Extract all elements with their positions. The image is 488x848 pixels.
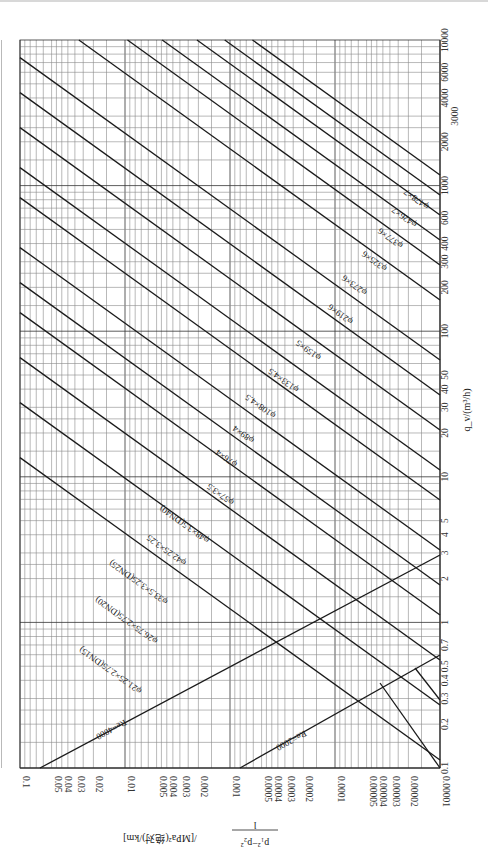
y-tick-label: 3000 bbox=[450, 106, 460, 125]
x-tick-label: 0.001 bbox=[231, 776, 241, 798]
x-tick-label: 0.04 bbox=[63, 776, 73, 793]
x-tick-label: 0.1 bbox=[21, 776, 31, 788]
y-tick-label: 20 bbox=[440, 428, 450, 438]
y-tick-label: 0.5 bbox=[440, 660, 450, 672]
pipe-label: φ133×4.5 bbox=[266, 366, 301, 395]
pipe-label: φ33.5×3.25(DN25) bbox=[107, 558, 169, 607]
laminar-segment bbox=[380, 683, 440, 768]
pipe-label: φ21.25×2.75(DN15) bbox=[77, 645, 143, 697]
x-axis-fraction-numerator: p₁²−p₂² bbox=[241, 838, 270, 848]
x-tick-label: 0.003 bbox=[181, 776, 191, 798]
x-axis-title: /[MPa²(绝对)/km] bbox=[123, 832, 197, 845]
y-tick-label: 0.4 bbox=[440, 674, 450, 686]
y-tick-label: 6000 bbox=[440, 63, 450, 82]
x-tick-label: 0.002 bbox=[199, 776, 209, 798]
x-tick-label: 0.0003 bbox=[286, 776, 296, 802]
y-tick-label: 4000 bbox=[440, 88, 450, 107]
y-tick-label: 2000 bbox=[440, 132, 450, 151]
x-tick-label: 0.0004 bbox=[273, 776, 283, 802]
y-tick-label: 400 bbox=[440, 236, 450, 251]
x-tick-label: 0.00005 bbox=[368, 776, 378, 807]
y-tick-label: 10000 bbox=[440, 28, 450, 52]
y-tick-label: 3 bbox=[440, 550, 450, 555]
y-tick-label: 0.3 bbox=[440, 692, 450, 704]
y-axis-title: q_v/(m³/h) bbox=[461, 389, 473, 432]
x-axis-fraction-denominator: l bbox=[253, 820, 256, 831]
x-tick-label: 0.01 bbox=[126, 776, 136, 793]
y-tick-label: 0.7 bbox=[440, 639, 450, 651]
y-tick-label: 50 bbox=[440, 370, 450, 380]
x-tick-label: 0.02 bbox=[94, 776, 104, 793]
x-tick-label: 0.005 bbox=[158, 776, 168, 798]
y-tick-label: 1000 bbox=[440, 176, 450, 195]
y-tick-label: 2 bbox=[440, 576, 450, 581]
y-tick-label: 1 bbox=[440, 620, 450, 625]
x-axis-ticks: 0.10.050.040.030.020.010.0050.0040.0030.… bbox=[21, 776, 451, 807]
pipe-line bbox=[225, 40, 440, 195]
x-tick-label: 0.00004 bbox=[378, 776, 388, 807]
y-axis-ticks: 0.10.20.30.40.50.71234510203040501002003… bbox=[440, 28, 460, 774]
y-tick-label: 4 bbox=[440, 532, 450, 537]
x-tick-label: 0.05 bbox=[53, 776, 63, 793]
gas-pipe-flow-chart: φ21.25×2.75(DN15)φ26.75×2.75(DN20)φ33.5×… bbox=[0, 0, 488, 848]
y-tick-label: 5 bbox=[440, 518, 450, 523]
x-tick-label: 0.0005 bbox=[263, 776, 273, 802]
pipe-label: φ26.75×2.75(DN20) bbox=[93, 595, 159, 647]
y-tick-label: 0.2 bbox=[440, 718, 450, 730]
x-tick-label: 0.00001 bbox=[441, 776, 451, 807]
y-tick-label: 600 bbox=[440, 211, 450, 226]
y-tick-label: 10 bbox=[440, 472, 450, 482]
pipe-label: φ108×4.5 bbox=[243, 392, 278, 421]
pipe-line bbox=[253, 40, 441, 175]
x-tick-label: 0.0002 bbox=[304, 776, 314, 802]
pipe-label: φ48×3.5(DN40) bbox=[158, 503, 211, 545]
pipe-line bbox=[128, 40, 441, 265]
y-tick-label: 40 bbox=[440, 384, 450, 394]
pipe-label: φ89×4 bbox=[230, 423, 256, 445]
x-tick-label: 0.00003 bbox=[391, 776, 401, 807]
y-tick-label: 100 bbox=[440, 324, 450, 339]
x-tick-label: 0.0001 bbox=[336, 776, 346, 802]
pipe-line bbox=[79, 40, 440, 300]
y-tick-label: 300 bbox=[440, 254, 450, 269]
y-tick-label: 200 bbox=[440, 280, 450, 295]
grid bbox=[2, 40, 440, 768]
x-tick-label: 0.004 bbox=[168, 776, 178, 798]
pipe-label: φ426×7 bbox=[389, 205, 418, 230]
re-4000-label: Re=4000 bbox=[94, 717, 128, 742]
y-tick-label: 0.1 bbox=[440, 762, 450, 774]
x-tick-label: 0.03 bbox=[76, 776, 86, 793]
pipe-label: φ273×6 bbox=[339, 273, 368, 298]
x-tick-label: 0.00002 bbox=[409, 776, 419, 807]
y-tick-label: 30 bbox=[440, 402, 450, 412]
